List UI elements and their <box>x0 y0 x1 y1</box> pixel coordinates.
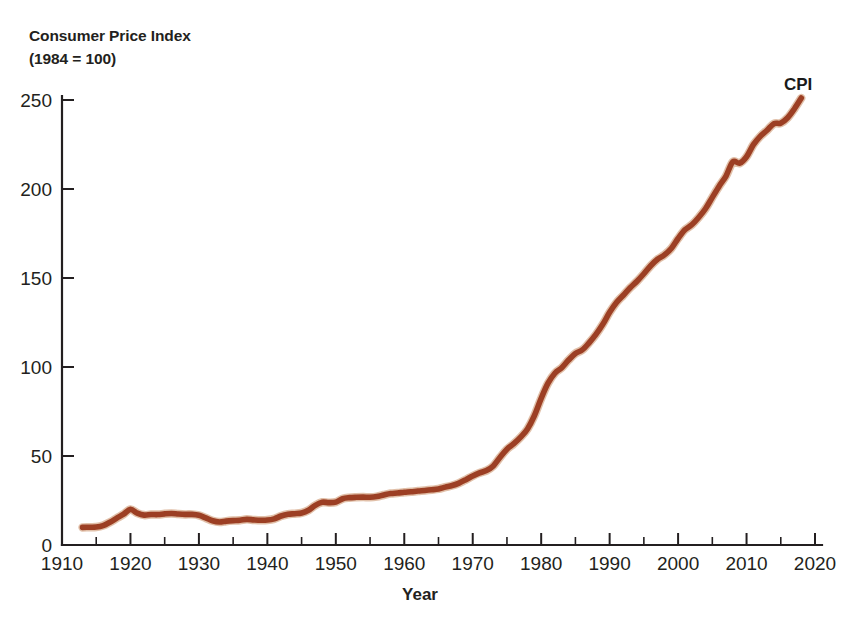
cpi-chart: Consumer Price Index (1984 = 100) 050100… <box>0 0 858 623</box>
x-axis-ticks: 1910192019301940195019601970198019902000… <box>41 533 836 574</box>
y-axis-ticks: 050100150200250 <box>20 90 74 556</box>
x-tick-label: 2020 <box>794 553 836 574</box>
x-tick-label: 1960 <box>383 553 425 574</box>
x-tick-label: 2000 <box>657 553 699 574</box>
y-tick-label: 250 <box>20 90 52 111</box>
y-tick-label: 50 <box>31 446 52 467</box>
y-tick-label: 200 <box>20 179 52 200</box>
y-tick-label: 100 <box>20 357 52 378</box>
series-label-cpi: CPI <box>784 75 812 94</box>
y-tick-label: 150 <box>20 268 52 289</box>
x-tick-label: 1990 <box>588 553 630 574</box>
x-tick-label: 1970 <box>452 553 494 574</box>
x-tick-label: 1910 <box>41 553 83 574</box>
x-axis-title: Year <box>402 585 438 604</box>
cpi-line-highlight <box>83 98 802 527</box>
x-tick-label: 1930 <box>178 553 220 574</box>
x-tick-label: 1920 <box>109 553 151 574</box>
cpi-line[interactable] <box>83 98 802 527</box>
x-tick-label: 1980 <box>520 553 562 574</box>
x-tick-label: 1950 <box>315 553 357 574</box>
plot-area: 050100150200250 191019201930194019501960… <box>0 0 858 623</box>
x-tick-label: 2010 <box>725 553 767 574</box>
x-tick-label: 1940 <box>246 553 288 574</box>
